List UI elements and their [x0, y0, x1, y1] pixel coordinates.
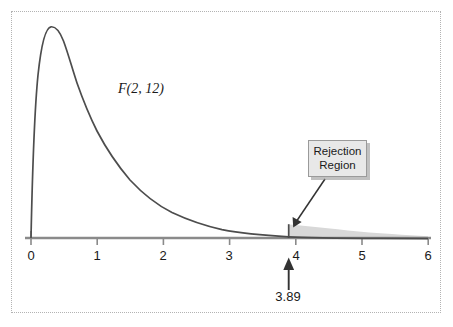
x-tick-label-5: 5 — [350, 249, 374, 262]
callout-line-1: Rejection — [314, 145, 362, 158]
rejection-region-shading — [289, 225, 428, 238]
figure-canvas: 0 1 2 3 4 5 6 F(2, 12) Rejection Region … — [0, 0, 453, 327]
x-tick-label-4: 4 — [284, 249, 308, 262]
x-tick-label-6: 6 — [416, 249, 440, 262]
x-tick-label-0: 0 — [19, 249, 43, 262]
x-tick-label-2: 2 — [151, 249, 175, 262]
distribution-label: F(2, 12) — [118, 81, 164, 97]
x-tick-label-1: 1 — [85, 249, 109, 262]
rejection-region-callout: Rejection Region — [308, 140, 367, 177]
density-curve — [31, 27, 428, 239]
critical-value-label: 3.89 — [266, 290, 310, 303]
callout-leader-arrow — [293, 179, 325, 228]
f-distribution-plot — [0, 0, 453, 327]
x-tick-label-3: 3 — [217, 249, 241, 262]
callout-line-2: Region — [319, 159, 355, 172]
